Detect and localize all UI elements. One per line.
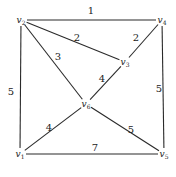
edge-weight-label: 1 (88, 5, 94, 16)
edge-v6-v5 (91, 107, 159, 151)
vertex-label-v3: v3 (121, 57, 130, 68)
edge-weight-label: 2 (74, 32, 80, 43)
vertex-label-v2: v2 (17, 15, 26, 26)
vertex-label-v6: v6 (82, 99, 91, 110)
edge-v4-v5 (162, 26, 164, 148)
vertex-label-v1: v1 (16, 149, 25, 160)
edge-weight-label: 7 (92, 142, 98, 153)
edge-weight-label: 5 (128, 124, 134, 135)
vertex-label-v5: v5 (160, 149, 169, 160)
edge-v3-v6 (90, 66, 121, 99)
weighted-graph: 1223455457v1v2v3v4v5v6 (0, 0, 176, 177)
vertex-label-v4: v4 (158, 15, 167, 26)
edge-v2-v1 (20, 26, 21, 148)
edge-weight-label: 5 (8, 86, 14, 97)
edge-weight-label: 2 (133, 32, 139, 43)
edge-weight-label: 3 (55, 51, 61, 62)
edge-weight-label: 4 (46, 122, 52, 133)
edge-weight-label: 5 (156, 83, 162, 94)
edge-v1-v6 (25, 108, 81, 151)
edge-weight-label: 4 (99, 73, 105, 84)
